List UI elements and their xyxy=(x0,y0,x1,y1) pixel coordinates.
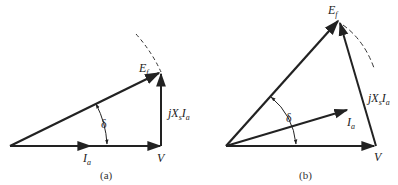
ia-label-a: Ia xyxy=(83,152,91,167)
caption-a: (a) xyxy=(100,170,112,181)
phasor-diagram-figure: Ef jXsIa δ Ia V (a) Ef jXsIa δ Ia V (b) xyxy=(0,0,398,185)
ef-label-b: Ef xyxy=(328,4,338,19)
jxs-ia-label-a: jXsIa xyxy=(168,107,190,122)
caption-b: (b) xyxy=(299,170,312,181)
ia-label-b: Ia xyxy=(347,116,355,131)
phasor-diagram-svg xyxy=(0,0,398,185)
v-label-b: V xyxy=(374,151,381,163)
jxs-ia-phasor-b xyxy=(340,23,376,146)
delta-label-a: δ xyxy=(101,118,107,130)
v-label-a: V xyxy=(157,152,164,164)
panel-a xyxy=(10,34,161,146)
ef-phasor-a xyxy=(10,73,159,146)
ef-phasor-b xyxy=(226,21,338,146)
delta-label-b: δ xyxy=(286,112,292,124)
jxs-ia-label-b: jXsIa xyxy=(368,92,390,107)
ef-label-a: Ef xyxy=(139,62,149,77)
delta-arc-b xyxy=(271,97,296,144)
